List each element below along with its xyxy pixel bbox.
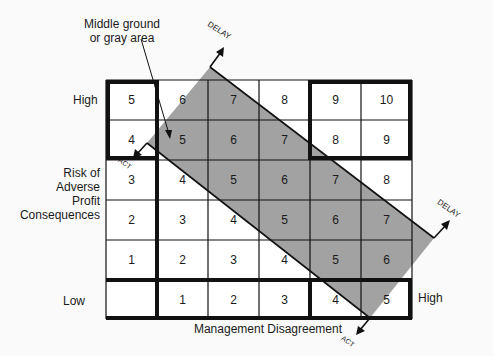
grid-cell: 3 — [157, 213, 208, 227]
y-axis-low-label: Low — [63, 294, 85, 308]
grid-cell: 7 — [208, 93, 259, 107]
grid-cell: 4 — [157, 173, 208, 187]
grid-cell: 3 — [106, 173, 157, 187]
grid-cell: 5 — [157, 133, 208, 147]
grid-cell: 4 — [106, 133, 157, 147]
y-axis-title-line: Consequences — [0, 208, 100, 222]
annotation-line-1: Middle ground — [66, 17, 178, 31]
grid-cell: 7 — [310, 173, 361, 187]
act-bottom-arrowhead — [356, 326, 365, 335]
y-axis-title-line: Risk of — [0, 166, 100, 180]
grid-cell: 5 — [361, 293, 412, 307]
annotation-line-2: or gray area — [66, 31, 178, 45]
grid-cell: 2 — [157, 253, 208, 267]
grid-cell: 4 — [310, 293, 361, 307]
grid-cell: 6 — [157, 93, 208, 107]
grid-cell: 7 — [259, 133, 310, 147]
grid-cell: 7 — [361, 213, 412, 227]
grid-cell: 5 — [106, 93, 157, 107]
grid-cell: 3 — [259, 293, 310, 307]
gray-area-annotation: Middle ground or gray area — [66, 17, 178, 45]
grid-cell: 9 — [310, 93, 361, 107]
grid-cell: 6 — [208, 133, 259, 147]
grid-cell: 3 — [208, 253, 259, 267]
grid-cell: 8 — [361, 173, 412, 187]
grid-cell: 8 — [310, 133, 361, 147]
x-axis-high-label: High — [418, 291, 443, 305]
grid-cell: 2 — [106, 213, 157, 227]
grid-cell: 5 — [208, 173, 259, 187]
grid-cell: 6 — [259, 173, 310, 187]
grid-cell: 9 — [361, 133, 412, 147]
grid-cell: 5 — [259, 213, 310, 227]
grid-cell: 6 — [361, 253, 412, 267]
y-axis-high-label: High — [73, 93, 98, 107]
delay-top-arrowhead — [216, 47, 224, 57]
y-axis-title-line: Profit — [0, 194, 100, 208]
grid-cell: 4 — [259, 253, 310, 267]
y-axis-title-line: Adverse — [0, 180, 100, 194]
grid-cell: 8 — [259, 93, 310, 107]
grid-cell: 1 — [106, 253, 157, 267]
x-axis-title: Management Disagreement — [188, 322, 348, 336]
grid-cell: 4 — [208, 213, 259, 227]
grid-cell: 2 — [208, 293, 259, 307]
grid-cell: 5 — [310, 253, 361, 267]
grid-cell: 10 — [361, 93, 412, 107]
grid-cell: 6 — [310, 213, 361, 227]
y-axis-title: Risk of Adverse Profit Consequences — [0, 166, 100, 222]
grid-cell: 1 — [157, 293, 208, 307]
